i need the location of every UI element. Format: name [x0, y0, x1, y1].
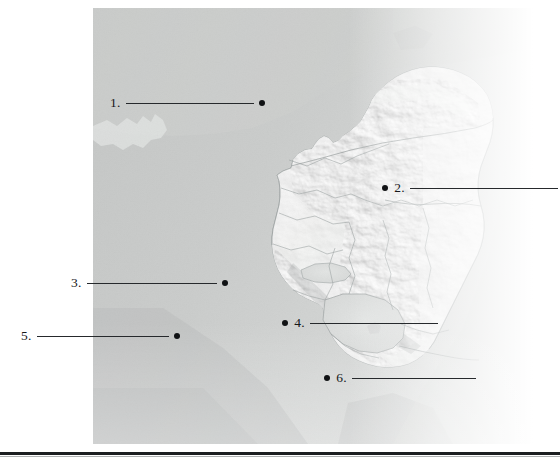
annotation-1-leader-line [126, 103, 254, 104]
annotation-2-leader-line [410, 188, 558, 189]
annotation-1-label: 1. [110, 96, 121, 110]
annotation-3-label: 3. [71, 276, 82, 290]
annotation-1-point-marker [259, 100, 265, 106]
annotation-4-point-marker [282, 320, 288, 326]
annotation-4-label: 4. [294, 316, 305, 330]
annotation-6-label: 6. [336, 371, 347, 385]
annotation-1[interactable]: 1. [110, 95, 265, 111]
annotation-2-label: 2. [394, 181, 405, 195]
annotation-5-point-marker [174, 333, 180, 339]
annotation-4[interactable]: 4. [282, 315, 438, 331]
annotation-6[interactable]: 6. [324, 370, 476, 386]
annotation-6-point-marker [324, 375, 330, 381]
annotation-3-leader-line [87, 283, 217, 284]
annotation-4-leader-line [310, 323, 438, 324]
annotation-2-point-marker [382, 185, 388, 191]
page-canvas: 1. 2. 3. 4. 5. 6. [0, 0, 560, 470]
annotation-5-label: 5. [21, 329, 32, 343]
annotation-3-point-marker [222, 280, 228, 286]
annotation-6-leader-line [352, 378, 476, 379]
annotation-2[interactable]: 2. [382, 180, 558, 196]
annotation-5[interactable]: 5. [21, 328, 180, 344]
annotation-5-leader-line [37, 336, 169, 337]
footer-divider-rule [0, 452, 560, 455]
footer-divider-rule-shadow [0, 456, 560, 457]
annotation-3[interactable]: 3. [71, 275, 228, 291]
